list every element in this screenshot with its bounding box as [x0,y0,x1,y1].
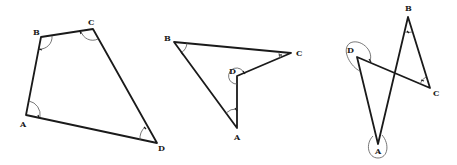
vertex-label-B: B [164,33,171,43]
crossed-quadrilateral: A B C D [346,3,439,158]
angle-arc-A [29,101,40,117]
vertex-label-B: B [405,3,412,13]
diagram-canvas: A B C D A B C D A B C D [0,0,457,165]
vertex-label-A: A [19,119,27,129]
vertex-label-D: D [229,66,236,76]
vertex-label-D: D [158,143,165,153]
crossed-outline [357,17,430,144]
vertex-label-C: C [433,88,439,98]
vertex-label-C: C [88,17,94,27]
angle-tick-D [144,127,146,129]
vertex-label-A: A [374,146,382,156]
convex-outline [26,29,157,143]
concave-quadrilateral: A B C D [164,33,302,142]
vertex-label-B: B [33,27,40,37]
convex-quadrilateral: A B C D [19,17,165,153]
vertex-label-C: C [296,48,302,58]
vertex-label-A: A [233,132,241,142]
quadrilateral-diagram: A B C D A B C D A B C D [0,0,457,165]
concave-outline [174,42,291,128]
angle-arc-D [140,127,145,140]
vertex-label-D: D [347,45,354,55]
